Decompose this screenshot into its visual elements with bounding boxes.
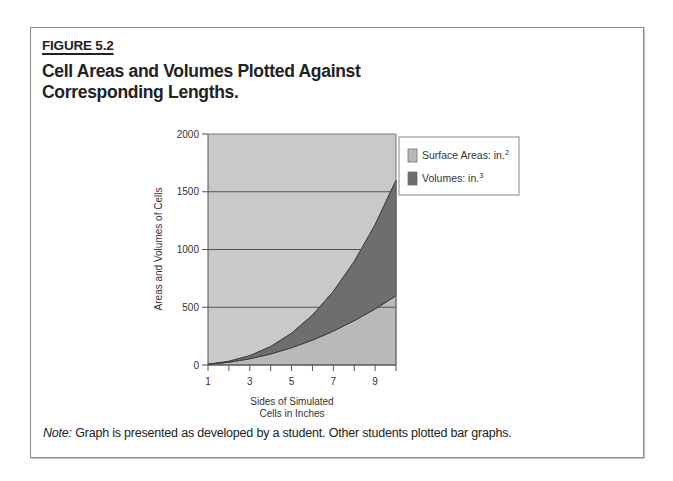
y-axis-ticks: 0500100015002000: [177, 129, 208, 371]
x-tick-label: 9: [372, 376, 378, 387]
y-tick-label: 2000: [177, 129, 200, 140]
y-tick-label: 500: [182, 302, 199, 313]
legend-swatch: [408, 172, 417, 185]
x-tick-label: 5: [289, 376, 295, 387]
legend-swatch: [408, 149, 417, 162]
legend-label: Volumes: in.3: [422, 171, 483, 184]
y-tick-label: 0: [193, 360, 199, 371]
x-tick-label: 1: [205, 376, 211, 387]
stacked-area-chart: 0500100015002000 13579 Areas and Volumes…: [0, 0, 673, 481]
x-axis-title: Sides of SimulatedCells in Inches: [250, 396, 333, 419]
legend-label: Surface Areas: in.2: [422, 148, 509, 161]
legend: Surface Areas: in.2Volumes: in.3: [399, 137, 519, 195]
legend-box: [399, 137, 519, 195]
y-tick-label: 1000: [177, 244, 200, 255]
y-axis-title: Areas and Volumes of Cells: [153, 188, 164, 311]
x-tick-label: 7: [331, 376, 337, 387]
y-tick-label: 1500: [177, 186, 200, 197]
x-axis-ticks: 13579: [205, 365, 396, 387]
x-tick-label: 3: [247, 376, 253, 387]
